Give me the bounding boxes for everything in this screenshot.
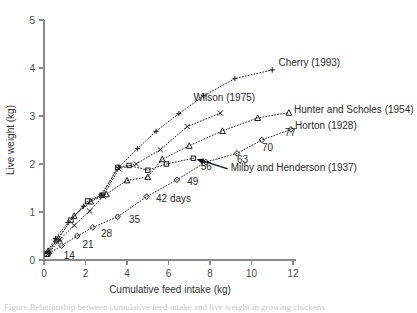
chart-canvas: 012345 024681012 Cumulative feed intake … bbox=[0, 0, 417, 313]
x-axis-title: Cumulative feed intake (kg) bbox=[109, 284, 231, 295]
figure-container: 012345 024681012 Cumulative feed intake … bbox=[0, 0, 417, 313]
y-tick-label: 2 bbox=[29, 159, 35, 170]
figure-caption-strip: Figure Relationship between cumulative f… bbox=[0, 301, 417, 313]
x-tick-label: 0 bbox=[41, 268, 47, 279]
data-point-cross bbox=[218, 111, 223, 116]
annotation-layer: Cherry (1993)Wilson (1975)Hunter and Sch… bbox=[64, 57, 414, 261]
y-axis-title: Live weight (kg) bbox=[5, 105, 16, 175]
day-label: 28 bbox=[101, 228, 113, 239]
y-tick-label: 4 bbox=[29, 63, 35, 74]
day-label: 21 bbox=[82, 239, 94, 250]
day-label: 70 bbox=[262, 142, 274, 153]
day-label: 49 bbox=[187, 176, 199, 187]
data-point-cross bbox=[185, 124, 190, 129]
day-label: 35 bbox=[129, 214, 141, 225]
series-milby-and-henderson-1937 bbox=[45, 156, 196, 256]
series-hunter-and-scholes-1954 bbox=[45, 110, 292, 254]
x-tick-label: 2 bbox=[83, 268, 89, 279]
series-line bbox=[47, 158, 193, 254]
data-point-diamond bbox=[144, 194, 149, 200]
day-label: 63 bbox=[237, 154, 249, 165]
x-tick-label: 6 bbox=[166, 268, 172, 279]
data-point-plus bbox=[232, 76, 237, 81]
series-line bbox=[49, 129, 291, 253]
series-line bbox=[48, 113, 289, 251]
x-tick-label: 10 bbox=[246, 268, 258, 279]
day-label: 14 bbox=[64, 250, 76, 261]
y-axis-ticks: 012345 bbox=[29, 15, 44, 266]
data-point-triangle bbox=[159, 156, 165, 162]
x-tick-label: 12 bbox=[287, 268, 299, 279]
data-point-triangle bbox=[220, 128, 226, 134]
y-tick-label: 5 bbox=[29, 15, 35, 26]
data-point-cross bbox=[134, 161, 139, 166]
data-point-triangle bbox=[186, 143, 192, 149]
y-tick-label: 0 bbox=[29, 255, 35, 266]
data-point-plus bbox=[270, 67, 275, 72]
y-tick-label: 1 bbox=[29, 207, 35, 218]
data-point-cross bbox=[158, 147, 163, 152]
x-tick-label: 4 bbox=[124, 268, 130, 279]
series-label: Wilson (1975) bbox=[193, 92, 255, 103]
series-label: Horton (1928) bbox=[295, 120, 357, 131]
figure-caption: Figure Relationship between cumulative f… bbox=[0, 301, 417, 313]
series-horton-1928 bbox=[46, 127, 293, 257]
day-label: 42 days bbox=[156, 193, 191, 204]
y-tick-label: 3 bbox=[29, 111, 35, 122]
series-label: Milby and Henderson (1937) bbox=[231, 162, 357, 173]
series-label: Cherry (1993) bbox=[278, 57, 340, 68]
series-label: Hunter and Scholes (1954) bbox=[294, 104, 414, 115]
data-point-triangle bbox=[286, 110, 292, 116]
data-point-cross bbox=[71, 223, 76, 228]
day-label: 77 bbox=[285, 127, 297, 138]
data-point-cross bbox=[87, 208, 92, 213]
x-tick-label: 8 bbox=[207, 268, 213, 279]
x-axis-ticks: 024681012 bbox=[41, 260, 299, 279]
